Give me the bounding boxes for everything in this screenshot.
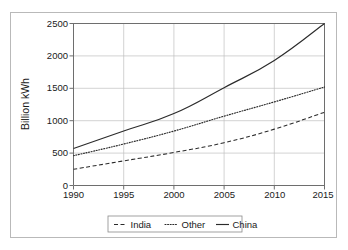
gridlines	[74, 24, 325, 186]
series-line-other	[74, 87, 325, 156]
y-tick-label-1000: 1000	[47, 115, 68, 126]
y-tick-label-500: 500	[52, 147, 68, 158]
y-tick-label-2500: 2500	[47, 18, 68, 29]
legend-items: IndiaOtherChina	[114, 219, 258, 230]
legend-label-india: India	[131, 219, 152, 230]
y-axis-title: Billion kWh	[19, 78, 31, 130]
x-tick-label-1990: 1990	[63, 189, 84, 200]
line-chart: 2500 2000 1500 1000 500 0 1990 1995 2000…	[0, 0, 348, 250]
x-tick-label-2000: 2000	[164, 189, 185, 200]
x-tick-label-2005: 2005	[214, 189, 235, 200]
legend-label-other: Other	[182, 219, 206, 230]
data-series-layer	[74, 24, 325, 170]
legend-label-china: China	[233, 219, 259, 230]
x-axis-tick-labels: 1990 1995 2000 2005 2010 2015	[63, 189, 334, 200]
chart-figure: 2500 2000 1500 1000 500 0 1990 1995 2000…	[0, 0, 348, 250]
y-axis-tick-labels: 2500 2000 1500 1000 500 0	[47, 18, 68, 191]
chart-legend: IndiaOtherChina	[108, 216, 258, 232]
x-tick-label-1995: 1995	[113, 189, 134, 200]
y-tick-label-2000: 2000	[47, 50, 68, 61]
series-line-china	[74, 24, 325, 149]
axis-lines	[74, 23, 326, 186]
y-tick-label-1500: 1500	[47, 82, 68, 93]
x-tick-label-2010: 2010	[264, 189, 285, 200]
tick-marks	[70, 24, 325, 190]
x-tick-label-2015: 2015	[312, 189, 333, 200]
